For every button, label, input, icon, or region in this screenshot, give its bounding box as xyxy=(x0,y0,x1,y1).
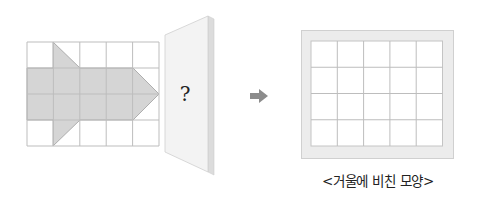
right-arrow-icon xyxy=(250,89,268,103)
mirror-panel: ? xyxy=(165,16,214,175)
mirror-side-edge xyxy=(208,16,214,175)
mirror-question-mark: ? xyxy=(180,82,191,106)
result-frame xyxy=(302,31,454,159)
source-grid xyxy=(27,42,159,146)
result-caption: <거울에 비친 모양> xyxy=(300,170,456,190)
